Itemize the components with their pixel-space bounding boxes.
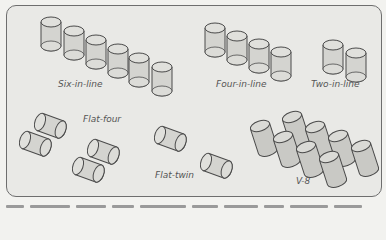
- label-v-8: V-8: [296, 176, 310, 186]
- two-in-line-group: [323, 40, 366, 82]
- label-six-in-line: Six-in-line: [58, 79, 102, 89]
- v-8-group: [249, 109, 380, 189]
- label-flat-four: Flat-four: [83, 114, 121, 124]
- label-flat-twin: Flat-twin: [155, 170, 194, 180]
- four-in-line-group: [205, 23, 291, 81]
- label-four-in-line: Four-in-line: [216, 79, 267, 89]
- cropped-caption: [6, 200, 382, 210]
- label-two-in-line: Two-in-line: [311, 79, 360, 89]
